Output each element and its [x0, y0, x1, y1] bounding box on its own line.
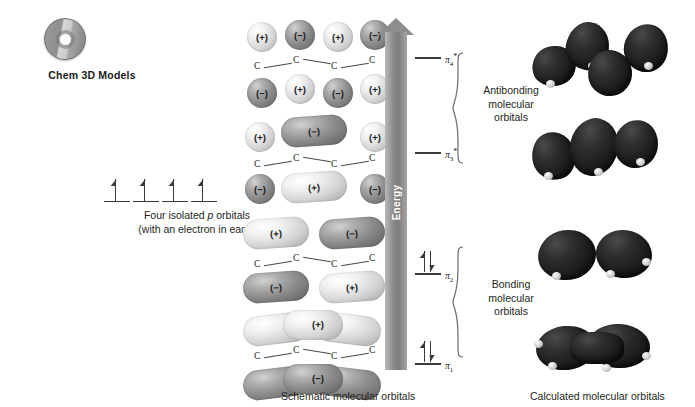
lobe-sign: (−) [243, 364, 393, 392]
orbital-lobe: (+) [242, 216, 310, 251]
hydrogen-nub-icon [534, 340, 543, 348]
calculated-lobe [535, 226, 599, 284]
orbital-lobe: (−) [247, 78, 277, 108]
orbital-lobe: (−) [242, 270, 310, 305]
schematic-orbitals-column: (+) (−) (+) (−) C C C C (−) (+) (−) (+) … [243, 22, 393, 382]
lobe-sign: (+) [247, 22, 277, 52]
carbon-chain: C C C C [243, 250, 393, 272]
level-rule [133, 201, 159, 202]
p-orbital-level [162, 176, 188, 202]
level-rule [162, 201, 188, 202]
lobe-sign: (−) [323, 78, 353, 108]
hydrogen-nub-icon [544, 172, 553, 180]
antibonding-brace [452, 52, 465, 164]
hydrogen-nub-icon [642, 352, 651, 360]
orbital-lobe: (+) [318, 270, 386, 305]
calculated-lobe [570, 332, 624, 364]
level-rule [191, 201, 217, 202]
electron-pair [415, 250, 441, 273]
orbital-lobe: (−) [243, 364, 393, 392]
electron-up-arrow-icon [115, 179, 116, 201]
calculated-orbital-pi2 [530, 228, 695, 296]
energy-level-pi1: π1 [415, 340, 441, 365]
electron-down-arrow-icon [430, 341, 431, 362]
orbital-lobe: (−) [318, 216, 386, 251]
carbon-atom-label: C [293, 253, 299, 263]
hydrogen-nub-icon [546, 80, 555, 88]
p-orbital-level [133, 176, 159, 202]
carbon-bond [341, 63, 369, 68]
hydrogen-nub-icon [548, 362, 557, 370]
carbon-chain: C C C C [243, 342, 393, 364]
calculated-orbitals-column [530, 18, 695, 373]
orbital-lobe: (+) [323, 22, 353, 52]
calculated-orbital-pi3 [530, 116, 695, 202]
electron-up-arrow-icon [424, 341, 425, 362]
carbon-bond [303, 257, 331, 262]
lobe-sign: (−) [242, 270, 310, 305]
carbon-atom-label: C [331, 259, 337, 269]
hydrogen-nub-icon [642, 258, 651, 266]
energy-level-pi2: π2 [415, 250, 441, 275]
energy-axis-label: Energy [391, 161, 402, 245]
lobe-sign: (−) [280, 114, 348, 149]
lobe-sign: (−) [285, 20, 315, 50]
orbital-lobe: (+) [243, 310, 393, 338]
carbon-atom-label: C [331, 159, 337, 169]
p-orbital-level [104, 176, 130, 202]
orbital-lobe: (+) [245, 122, 275, 152]
calculated-caption: Calculated molecular orbitals [530, 390, 665, 402]
level-subscript: 1 [450, 366, 454, 374]
lobe-sign: (+) [285, 74, 315, 104]
carbon-bond [303, 59, 331, 64]
carbon-chain: C C C C [243, 52, 393, 74]
carbon-bond [303, 157, 331, 162]
hydrogen-nub-icon [594, 168, 603, 176]
energy-level-pi4: π4* [415, 57, 441, 59]
lobe-sign: (+) [280, 170, 348, 205]
energy-arrow-shaft: Energy [385, 32, 407, 370]
carbon-atom-label: C [331, 351, 337, 361]
calculated-orbital-pi4 [530, 18, 695, 110]
hydrogen-nub-icon [552, 272, 561, 280]
carbon-bond [341, 353, 369, 358]
lobe-sign: (+) [318, 270, 386, 305]
carbon-bond [341, 161, 369, 166]
carbon-atom-label: C [254, 259, 260, 269]
lobe-sign: (+) [323, 22, 353, 52]
schematic-orbital-pi3: (+) (−) (+) C C C C (−) (+) (−) [243, 118, 393, 206]
hydrogen-nub-icon [644, 62, 653, 70]
electron-up-arrow-icon [144, 179, 145, 201]
carbon-atom-label: C [254, 61, 260, 71]
p-caption-line2: (with an electron in each) [138, 223, 255, 235]
calculated-orbital-pi1 [530, 316, 695, 382]
chem-3d-models-badge[interactable]: Chem 3D Models [22, 18, 162, 81]
carbon-atom-label: C [293, 55, 299, 65]
hydrogen-nub-icon [602, 364, 611, 372]
lobe-sign: (−) [245, 174, 275, 204]
orbital-lobe: (+) [285, 74, 315, 104]
lobe-sign: (+) [242, 216, 310, 251]
carbon-atom-label: C [254, 351, 260, 361]
p-orbital-level [191, 176, 217, 202]
electron-up-arrow-icon [173, 179, 174, 201]
level-rule [415, 363, 441, 365]
level-rule [415, 57, 441, 59]
carbon-chain: C C C C [243, 150, 393, 172]
electron-up-arrow-icon [424, 251, 425, 272]
schematic-orbital-pi4: (+) (−) (+) (−) C C C C (−) (+) (−) (+) [243, 22, 393, 110]
lobe-sign: (−) [247, 78, 277, 108]
level-rule [415, 273, 441, 275]
level-rule [104, 201, 130, 202]
carbon-atom-label: C [254, 159, 260, 169]
electron-down-arrow-icon [430, 251, 431, 272]
orbital-lobe: (+) [247, 22, 277, 52]
carbon-atom-label: C [293, 153, 299, 163]
lobe-sign: (+) [243, 310, 393, 338]
hydrogen-nub-icon [636, 158, 645, 166]
carbon-atom-label: C [293, 345, 299, 355]
lobe-sign: (−) [318, 216, 386, 251]
carbon-bond [303, 349, 331, 354]
orbital-lobe: (−) [280, 114, 348, 149]
carbon-bond [264, 63, 292, 68]
